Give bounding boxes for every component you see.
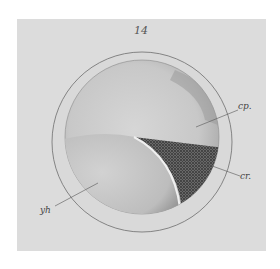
label-cp: cp. xyxy=(238,101,252,111)
egg-diagram xyxy=(0,0,280,269)
figure-number: 14 xyxy=(134,24,148,37)
label-cr: cr. xyxy=(240,171,251,181)
label-yh: yh xyxy=(40,205,51,215)
